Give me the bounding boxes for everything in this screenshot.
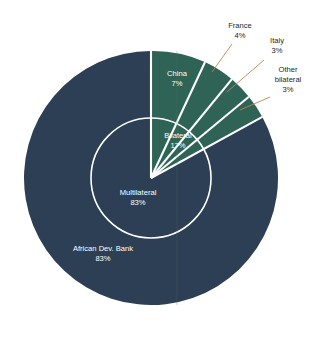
label-china-name: China — [167, 69, 188, 78]
leader-line-france — [212, 44, 232, 72]
label-other-bilateral-line1: Other — [279, 65, 298, 74]
pie-chart-svg: China 7% Bilateral 17% Multilateral 83% … — [0, 0, 317, 356]
label-bilateral-name: Bilateral — [164, 131, 192, 140]
leader-line-italy — [227, 60, 264, 92]
label-france-pct: 4% — [235, 31, 246, 40]
label-bilateral-pct: 17% — [170, 141, 185, 150]
label-france: France 4% — [228, 21, 252, 40]
label-france-name: France — [228, 21, 252, 30]
label-italy: Italy 3% — [270, 36, 284, 55]
pie-chart-container: China 7% Bilateral 17% Multilateral 83% … — [0, 0, 317, 356]
label-multilateral-name: Multilateral — [120, 188, 157, 197]
label-china-pct: 7% — [172, 79, 183, 88]
label-other-bilateral-pct: 3% — [283, 85, 294, 94]
label-multilateral-pct: 83% — [130, 198, 145, 207]
label-italy-name: Italy — [270, 36, 284, 45]
label-african-dev-bank-name: African Dev. Bank — [73, 244, 133, 253]
label-other-bilateral: Other bilateral 3% — [275, 65, 302, 94]
label-other-bilateral-line2: bilateral — [275, 75, 302, 84]
label-italy-pct: 3% — [272, 46, 283, 55]
label-african-dev-bank-pct: 83% — [95, 254, 110, 263]
